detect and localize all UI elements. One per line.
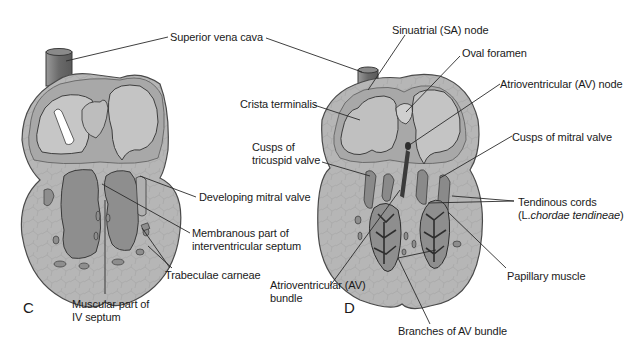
latin-prefix: (L. [518, 209, 531, 221]
label-crista-terminalis: Crista terminalis [240, 98, 317, 111]
label-cusps-mitral: Cusps of mitral valve [512, 131, 612, 144]
label-tendinous-cords-line1: Tendinous cords [518, 196, 624, 209]
heart-d [318, 67, 483, 309]
heart-c [21, 49, 180, 308]
label-muscular-septum: Muscular part of IV septum [72, 298, 149, 323]
latin-term: chordae tendineae [531, 209, 620, 221]
label-muscular-septum-line2: IV septum [72, 311, 149, 324]
label-oval-foramen: Oval foramen [462, 47, 527, 60]
label-membranous-septum-line1: Membranous part of [192, 227, 301, 240]
figure-heart-conduction: Superior vena cava Developing mitral val… [0, 0, 634, 348]
label-developing-mitral-valve: Developing mitral valve [199, 191, 310, 204]
label-tendinous-cords: Tendinous cords (L.chordae tendineae) [518, 196, 624, 221]
label-papillary-muscle: Papillary muscle [507, 270, 585, 283]
label-cusps-tricuspid-line1: Cusps of [252, 141, 320, 154]
label-trabeculae-carneae: Trabeculae carneae [165, 269, 261, 282]
label-cusps-tricuspid: Cusps of tricuspid valve [252, 141, 320, 166]
label-tendinous-cords-line2: (L.chordae tendineae) [518, 209, 624, 222]
label-membranous-septum: Membranous part of interventricular sept… [192, 227, 301, 252]
label-av-node: Atrioventricular (AV) node [500, 78, 623, 91]
label-sa-node: Sinuatrial (SA) node [392, 24, 488, 37]
latin-suffix: ) [620, 209, 624, 221]
panel-letter-d: D [344, 299, 355, 316]
label-av-bundle-line1: Atrioventricular (AV) [270, 279, 366, 292]
panel-letter-c: C [23, 299, 34, 316]
label-branches-av-bundle: Branches of AV bundle [398, 325, 507, 338]
label-muscular-septum-line1: Muscular part of [72, 298, 149, 311]
label-membranous-septum-line2: interventricular septum [192, 240, 301, 253]
label-cusps-tricuspid-line2: tricuspid valve [252, 154, 320, 167]
label-superior-vena-cava: Superior vena cava [170, 31, 263, 44]
